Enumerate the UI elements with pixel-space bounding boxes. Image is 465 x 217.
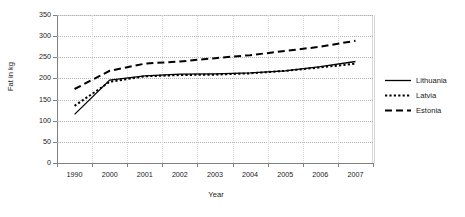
series-line-estonia: [75, 41, 356, 89]
legend-swatch-solid-icon: [384, 73, 412, 88]
legend-label: Latvia: [416, 91, 436, 100]
chart-legend: LithuaniaLatviaEstonia: [384, 73, 464, 118]
legend-label: Estonia: [416, 106, 441, 115]
legend-item-estonia[interactable]: Estonia: [384, 103, 464, 118]
legend-label: Lithuania: [416, 76, 447, 85]
fat-consumption-line-chart: 050100150200250300350 199020002001200220…: [0, 0, 465, 217]
legend-item-lithuania[interactable]: Lithuania: [384, 73, 464, 88]
legend-swatch-dashed-icon: [384, 103, 412, 118]
legend-swatch-dotted-icon: [384, 88, 412, 103]
legend-item-latvia[interactable]: Latvia: [384, 88, 464, 103]
